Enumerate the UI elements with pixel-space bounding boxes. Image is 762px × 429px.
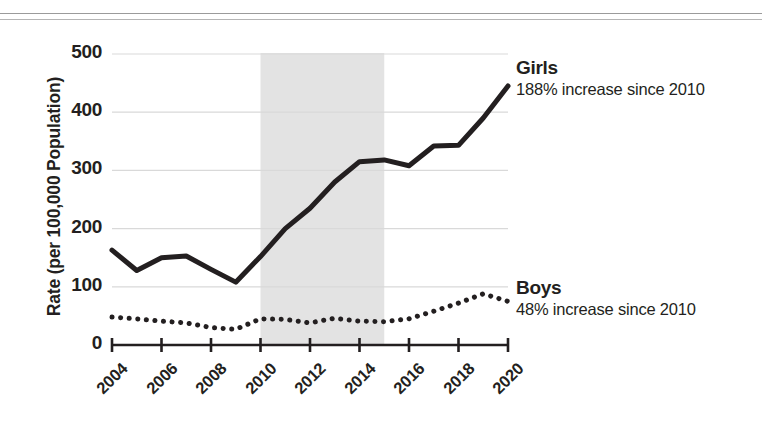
y-axis-title: Rate (per 100,000 Population) bbox=[44, 47, 65, 347]
figure-page: Rate (per 100,000 Population) 0100200300… bbox=[0, 0, 762, 429]
girls-series-name: Girls bbox=[516, 58, 705, 78]
boys-series-name: Boys bbox=[516, 278, 696, 298]
y-tick-label-100: 100 bbox=[42, 274, 102, 296]
y-tick-label-300: 300 bbox=[42, 157, 102, 179]
boys-series-subtitle: 48% increase since 2010 bbox=[516, 300, 696, 319]
x-axis bbox=[112, 338, 508, 352]
y-tick-label-400: 400 bbox=[42, 99, 102, 121]
line-chart: Rate (per 100,000 Population) 0100200300… bbox=[0, 0, 762, 429]
girls-annotation: Girls 188% increase since 2010 bbox=[516, 58, 705, 99]
y-tick-label-0: 0 bbox=[42, 332, 102, 354]
y-tick-label-200: 200 bbox=[42, 216, 102, 238]
boys-annotation: Boys 48% increase since 2010 bbox=[516, 278, 696, 319]
shaded-band-2010-2015 bbox=[261, 53, 385, 345]
shaded-band-rect bbox=[261, 53, 385, 345]
y-tick-label-500: 500 bbox=[42, 41, 102, 63]
girls-series-subtitle: 188% increase since 2010 bbox=[516, 80, 705, 99]
